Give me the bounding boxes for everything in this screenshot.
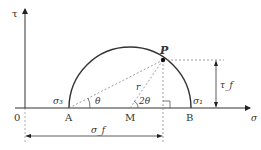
origin-label: 0 (14, 112, 20, 123)
sigma1-label: σ₁ (193, 96, 203, 106)
tau-axis-label: τ (12, 8, 18, 19)
sigma3-label: σ₃ (53, 96, 63, 106)
two-theta-arc (134, 101, 138, 108)
sigma-axis-label: σ (251, 113, 258, 123)
theta-arc (88, 98, 90, 108)
sigma-f-label: σ_f (91, 125, 107, 136)
point-B-label: B (186, 112, 193, 123)
two-theta-label: 2θ (138, 96, 151, 106)
theta-label: θ (95, 96, 101, 106)
right-angle-marker (163, 101, 170, 108)
radius-label: r (136, 82, 141, 92)
point-M-label: M (125, 112, 135, 123)
mohr-circle-diagram: τ σ 0 A M B P σ₃ σ₁ θ 2θ r τ_f σ_f (0, 0, 261, 150)
tau-f-label: τ_f (220, 80, 234, 91)
point-A-label: A (64, 112, 73, 123)
point-P (161, 58, 165, 62)
point-P-label: P (159, 44, 169, 57)
